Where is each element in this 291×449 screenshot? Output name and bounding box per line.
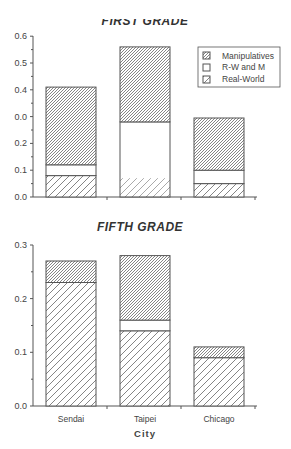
bar-sendai-fifth: [46, 261, 96, 406]
category-label-sendai: Sendai: [58, 414, 85, 424]
manipulatives-swatch: [203, 52, 210, 59]
fifth-grade-chart: FIFTH GRADE 0.0 0.1 0.2 0.3: [14, 220, 257, 439]
bar-taipei-fifth: [120, 256, 170, 406]
legend-label: R-W and M: [222, 62, 265, 72]
y-tick-label: 0.0: [14, 112, 27, 122]
bar-chicago-fifth: [194, 347, 244, 406]
y-tick-label: 0.5: [14, 58, 27, 68]
y-tick-label: 0.0: [14, 401, 27, 411]
y-tick-label: 0.4: [14, 85, 27, 95]
category-label-taipei: Taipei: [134, 414, 156, 424]
category-label-chicago: Chicago: [203, 414, 234, 424]
bar-sendai-first: [46, 87, 96, 197]
first-grade-title: FIRST GRADE: [102, 14, 189, 28]
legend: Manipulatives R-W and M Real-World: [198, 47, 280, 87]
bar-taipei-first: [120, 47, 170, 197]
y-tick-label: 0.6: [14, 31, 27, 41]
first-grade-chart: FIRST GRADE 0.0 0.1 0.2 0.0 0.4: [14, 14, 280, 202]
y-tick-label: 0.1: [14, 165, 27, 175]
y-tick-label: 0.1: [14, 347, 27, 357]
x-axis-label: City: [134, 428, 156, 439]
chart-canvas: FIRST GRADE 0.0 0.1 0.2 0.0 0.4: [0, 0, 291, 449]
rw-and-m-swatch: [203, 64, 210, 71]
y-tick-label: 0.0: [14, 192, 27, 202]
y-tick-label: 0.2: [14, 138, 27, 148]
y-tick-label: 0.2: [14, 294, 27, 304]
real-world-swatch: [203, 76, 210, 83]
legend-label: Real-World: [222, 74, 265, 84]
fifth-grade-title: FIFTH GRADE: [97, 220, 184, 234]
legend-label: Manipulatives: [222, 51, 274, 61]
y-tick-label: 0.3: [14, 240, 27, 250]
bar-chicago-first: [194, 118, 244, 197]
